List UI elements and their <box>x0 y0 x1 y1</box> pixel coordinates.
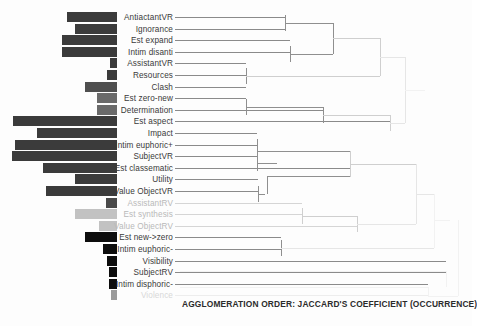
axis-title: AGGLOMERATION ORDER: JACCARD'S COEFFICIE… <box>182 299 477 309</box>
occurrence-bar <box>111 290 117 300</box>
link-hline <box>180 271 446 272</box>
occurrence-bar <box>85 232 117 242</box>
leaf-line <box>175 284 428 285</box>
leaf-line <box>175 156 257 157</box>
link-hline <box>302 216 357 217</box>
occurrence-bar <box>106 198 117 208</box>
occurrence-bar <box>103 244 117 254</box>
leaf-line <box>175 237 281 238</box>
occurrence-bar <box>67 12 117 22</box>
link-hline <box>257 163 277 164</box>
link-hline <box>281 248 434 249</box>
link-hline <box>350 164 416 165</box>
leaf-line <box>175 261 446 262</box>
occurrence-bar <box>62 47 117 57</box>
leaf-line <box>175 179 258 180</box>
link-hline <box>267 176 350 177</box>
link-hline <box>290 54 333 55</box>
leaf-line <box>175 226 357 227</box>
link-vline <box>267 176 268 194</box>
link-hline <box>246 76 380 77</box>
link-hline <box>357 224 416 225</box>
leaf-line <box>175 133 257 134</box>
occurrence-bar <box>12 151 117 161</box>
occurrence-bar <box>107 70 117 80</box>
link-hline <box>285 23 333 24</box>
occurrence-bar <box>37 128 117 138</box>
leaf-line <box>175 295 428 296</box>
occurrence-bar <box>75 174 117 184</box>
link-hline <box>350 176 351 177</box>
leaf-line <box>175 214 302 215</box>
occurrence-bar <box>97 93 117 103</box>
occurrence-bar <box>97 105 117 115</box>
link-vline <box>458 220 459 296</box>
link-vline <box>428 287 429 296</box>
leaf-line <box>175 17 285 18</box>
leaf-line <box>175 272 446 273</box>
leaf-line <box>175 168 350 169</box>
leaf-line <box>175 40 290 41</box>
link-hline <box>258 194 265 195</box>
leaf-line <box>175 52 290 53</box>
link-hline <box>380 57 405 58</box>
occurrence-bar <box>75 24 117 34</box>
leaf-line <box>175 203 302 204</box>
occurrence-bar <box>46 186 117 196</box>
link-vline <box>446 271 447 287</box>
link-hline <box>416 194 434 195</box>
leaf-line <box>175 121 390 122</box>
link-vline <box>434 194 435 248</box>
link-hline <box>405 90 425 91</box>
occurrence-bar <box>110 58 117 68</box>
link-hline <box>333 38 380 39</box>
occurrence-bar <box>85 82 117 92</box>
leaf-line <box>175 249 281 250</box>
occurrence-bar <box>62 35 117 45</box>
occurrence-bar <box>43 163 117 173</box>
link-hline <box>246 107 323 108</box>
occurrence-bar <box>75 209 117 219</box>
link-hline <box>257 151 350 152</box>
leaf-line <box>175 98 246 99</box>
link-hline <box>428 296 458 297</box>
link-hline <box>390 123 405 124</box>
leaf-line <box>175 63 246 64</box>
leaf-line <box>175 110 323 111</box>
occurrence-bar <box>109 267 117 277</box>
leaf-line <box>175 75 246 76</box>
leaf-line <box>175 191 258 192</box>
leaf-line <box>175 145 257 146</box>
link-hline <box>323 115 390 116</box>
occurrence-bar <box>13 116 117 126</box>
leaf-line <box>175 87 246 88</box>
occurrence-bar <box>107 256 117 266</box>
occurrence-bar <box>15 140 117 150</box>
link-hline <box>434 220 450 221</box>
link-hline <box>180 287 428 288</box>
leaf-label: Violence <box>141 289 173 302</box>
leaf-line <box>175 29 285 30</box>
